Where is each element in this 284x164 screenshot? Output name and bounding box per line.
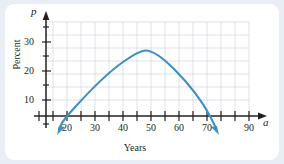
x-axis-title: Years — [105, 142, 165, 153]
parabola-curve — [57, 50, 219, 135]
x-axis-variable-label: a — [263, 116, 269, 128]
x-tick-label-50: 50 — [142, 122, 160, 133]
x-tick-label-70: 70 — [198, 122, 216, 133]
y-axis-variable-label: p — [31, 5, 37, 17]
chart-plot — [0, 0, 284, 164]
grid-lines — [46, 22, 249, 116]
x-tick-label-90: 90 — [240, 122, 258, 133]
axis-lines — [34, 16, 262, 128]
figure-container: p a 30 20 10 20 30 40 50 60 70 90 Percen… — [0, 0, 284, 164]
x-tick-label-40: 40 — [114, 122, 132, 133]
x-tick-label-20: 20 — [58, 122, 76, 133]
x-tick-label-60: 60 — [170, 122, 188, 133]
y-tick-label-10: 10 — [16, 94, 34, 105]
y-axis-title: Percent — [11, 22, 22, 88]
y-axis-arrowhead — [43, 11, 50, 20]
x-tick-label-30: 30 — [86, 122, 104, 133]
